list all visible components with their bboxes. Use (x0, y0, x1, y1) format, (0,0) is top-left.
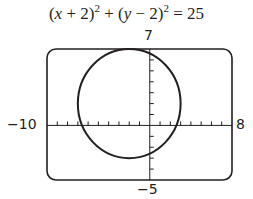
circle-graph (78, 49, 181, 158)
viewing-window-frame (47, 49, 232, 180)
plot-area (0, 0, 253, 199)
